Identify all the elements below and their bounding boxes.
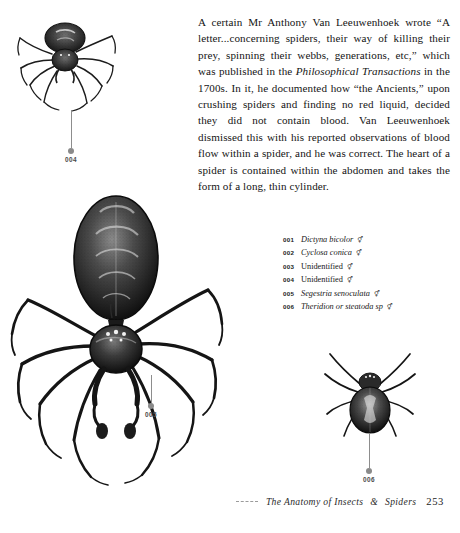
female-symbol-icon: ⚥ (387, 302, 393, 314)
callout-leader-line (369, 434, 370, 468)
legend-species-name: Segestria senoculata (301, 288, 370, 300)
female-symbol-icon: ⚥ (374, 289, 380, 301)
callout-005: 005 (138, 375, 164, 418)
page-number: 253 (426, 496, 444, 507)
footer-ampersand: & (369, 496, 379, 507)
legend-number: 003 (283, 261, 301, 273)
callout-leader-line (71, 110, 72, 148)
legend-item: 001 Dictyna bicolor ⚥ (283, 234, 453, 247)
female-symbol-icon: ⚥ (347, 262, 353, 274)
female-symbol-icon: ⚥ (357, 235, 363, 247)
callout-number: 005 (138, 411, 164, 418)
legend-item: 004 Unidentified ⚥ (283, 274, 453, 287)
callout-006: 006 (356, 434, 382, 483)
page-footer: The Anatomy of Insects & Spiders 253 (0, 496, 444, 507)
legend-number: 004 (283, 274, 301, 286)
spider-illustration-005 (4, 150, 228, 500)
legend-number: 005 (283, 288, 301, 300)
legend-number: 001 (283, 234, 301, 246)
callout-dot (366, 468, 372, 474)
legend-item: 002 Cyclosa conica ⚥ (283, 247, 453, 260)
legend-species-name: Dictyna bicolor (301, 234, 353, 246)
callout-dot (148, 403, 154, 409)
legend-item: 003 Unidentified ⚥ (283, 261, 453, 274)
legend-species-name: Unidentified (301, 261, 343, 273)
female-symbol-icon: ⚥ (356, 248, 362, 260)
legend-item: 006 Theridion or steatoda sp ⚥ (283, 301, 453, 314)
species-legend: 001 Dictyna bicolor ⚥ 002 Cyclosa conica… (283, 234, 453, 314)
spider-illustration-004 (8, 10, 126, 118)
footer-title-tail: Spiders (385, 496, 416, 507)
legend-number: 006 (283, 301, 301, 313)
legend-number: 002 (283, 247, 301, 259)
spider-illustration-006 (318, 348, 422, 444)
female-symbol-icon: ⚥ (347, 275, 353, 287)
footer-rule (236, 501, 258, 502)
body-text-part-2: in the 1700s. In it, he documented how “… (198, 65, 450, 192)
callout-leader-line (151, 375, 152, 403)
body-paragraph: A certain Mr Anthony Van Leeuwenhoek wro… (198, 14, 450, 194)
callout-number: 006 (356, 476, 382, 483)
legend-species-name: Unidentified (301, 274, 343, 286)
body-text-italic-title: Philosophical Transactions (296, 65, 421, 77)
legend-species-name: Theridion or steatoda sp (301, 301, 383, 313)
legend-item: 005 Segestria senoculata ⚥ (283, 288, 453, 301)
legend-species-name: Cyclosa conica (301, 247, 352, 259)
book-page: 004 (0, 0, 460, 533)
footer-title: The Anatomy of Insects (266, 496, 363, 507)
